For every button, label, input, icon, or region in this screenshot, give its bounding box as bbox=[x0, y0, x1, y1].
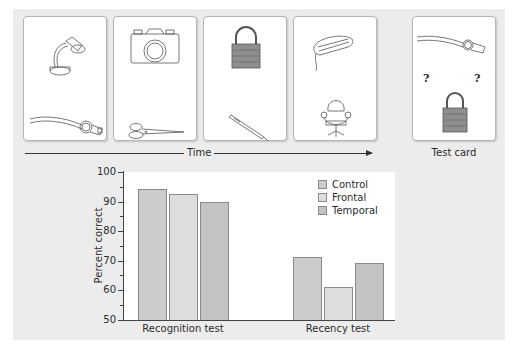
bar-recognition-control bbox=[138, 189, 167, 321]
y-tick bbox=[118, 320, 123, 321]
legend-swatch-control bbox=[318, 180, 327, 189]
legend-label: Frontal bbox=[332, 192, 366, 203]
legend-swatch-frontal bbox=[318, 193, 327, 202]
pen-icon bbox=[204, 17, 288, 142]
y-tick bbox=[118, 202, 123, 203]
study-card-2 bbox=[113, 16, 197, 141]
bar-recognition-frontal bbox=[169, 194, 198, 321]
study-card-3 bbox=[203, 16, 287, 141]
y-minor-tick bbox=[120, 275, 123, 276]
y-axis-label: Percent correct bbox=[93, 186, 104, 306]
study-card-1 bbox=[23, 16, 107, 141]
scissors-icon bbox=[114, 17, 198, 142]
question-mark-left: ? bbox=[423, 72, 429, 85]
y-tick bbox=[118, 231, 123, 232]
y-minor-tick bbox=[120, 216, 123, 217]
test-card-label: Test card bbox=[412, 146, 496, 160]
legend-swatch-temporal bbox=[318, 206, 327, 215]
category-label-recognition: Recognition test bbox=[133, 322, 233, 336]
wristwatch-icon bbox=[24, 17, 108, 142]
y-axis bbox=[123, 171, 124, 321]
arrowhead-icon bbox=[366, 150, 373, 156]
question-mark-right: ? bbox=[474, 72, 480, 85]
legend-label: Control bbox=[332, 179, 368, 190]
y-minor-tick bbox=[120, 305, 123, 306]
y-tick-label: 100 bbox=[86, 166, 116, 178]
category-label-recency: Recency test bbox=[288, 322, 388, 336]
legend-label: Temporal bbox=[332, 205, 378, 216]
y-minor-tick bbox=[120, 187, 123, 188]
y-tick bbox=[118, 290, 123, 291]
bar-recognition-temporal bbox=[200, 202, 229, 321]
bar-recency-control bbox=[293, 257, 322, 321]
bar-recency-temporal bbox=[355, 263, 384, 321]
y-tick-label: 50 bbox=[86, 314, 116, 326]
x-axis bbox=[123, 320, 395, 321]
study-card-4 bbox=[293, 16, 377, 141]
bar-recency-frontal bbox=[324, 287, 353, 321]
y-tick bbox=[118, 261, 123, 262]
y-minor-tick bbox=[120, 246, 123, 247]
y-tick bbox=[118, 172, 123, 173]
time-label: Time bbox=[184, 146, 214, 160]
office-chair-icon bbox=[294, 17, 378, 142]
